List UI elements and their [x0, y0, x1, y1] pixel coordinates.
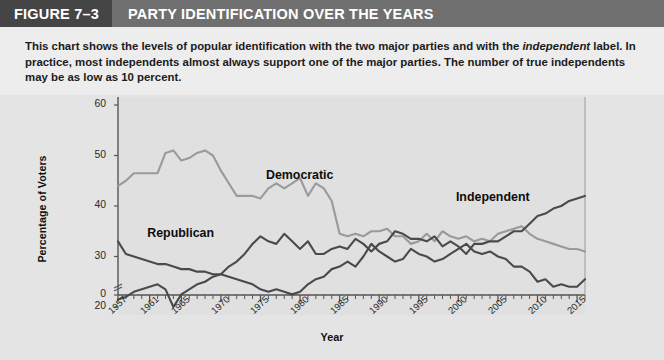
y-tick-label-60: 60: [78, 98, 106, 109]
figure-number-tag: FIGURE 7–3: [0, 0, 112, 27]
series-label-republican: Republican: [147, 226, 214, 240]
figure-container: FIGURE 7–3 PARTY IDENTIFICATION OVER THE…: [0, 0, 664, 360]
caption-emphasis: independent: [522, 40, 590, 52]
y-tick-label-50: 50: [78, 149, 106, 160]
y-tick-label-30: 30: [78, 250, 106, 261]
y-tick-label-0: 0: [78, 288, 106, 299]
figure-header-bar: FIGURE 7–3 PARTY IDENTIFICATION OVER THE…: [0, 0, 664, 27]
plot-area-background: [118, 97, 585, 315]
y-tick-label-40: 40: [78, 199, 106, 210]
line-chart-svg: [0, 95, 664, 360]
series-label-democratic: Democratic: [266, 168, 334, 182]
caption-text: This chart shows the levels of popular i…: [25, 39, 640, 86]
figure-title: PARTY IDENTIFICATION OVER THE YEARS: [112, 0, 434, 27]
series-label-independent: Independent: [456, 190, 530, 204]
y-tick-label-20: 20: [78, 300, 106, 311]
caption-part-1: This chart shows the levels of popular i…: [25, 40, 522, 52]
caption-area: This chart shows the levels of popular i…: [0, 27, 664, 95]
chart-panel: Percentage of Voters Year 02030405060 19…: [0, 95, 664, 360]
plot-background: [118, 97, 585, 315]
